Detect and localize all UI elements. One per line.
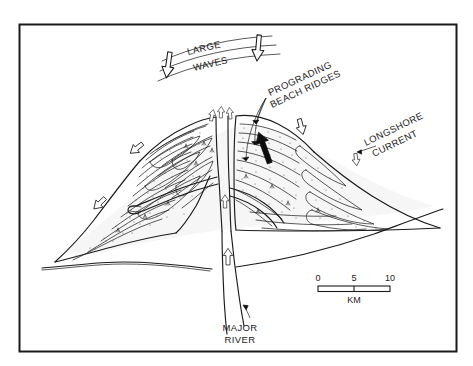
major-river-label-line2: RIVER [224,334,255,345]
scale-bar-unit-label: KM [347,295,361,305]
figure-root: LARGE WAVES [0,0,473,366]
scale-tick-label-0: 0 [315,273,320,283]
scale-tick-label-10: 10 [385,273,395,283]
major-river-label: MAJOR RIVER [222,322,257,345]
major-river-label-line1: MAJOR [222,322,257,333]
scale-tick-label-5: 5 [351,273,356,283]
delta-block-diagram-svg: LARGE WAVES [0,0,473,366]
